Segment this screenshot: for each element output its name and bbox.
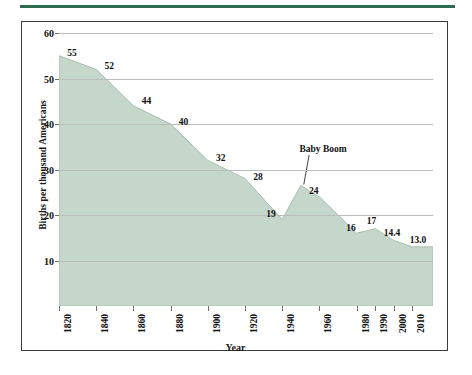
point-label-1880: 40 xyxy=(179,117,189,127)
point-label-1990: 17 xyxy=(367,216,377,226)
gridline-60 xyxy=(59,33,433,34)
y-tick-mark-40 xyxy=(55,124,59,125)
x-tick-mark-1840 xyxy=(96,306,97,311)
y-tick-label-40: 40 xyxy=(44,119,54,130)
x-tick-label-1860: 1860 xyxy=(137,314,147,333)
x-tick-mark-1960 xyxy=(319,306,320,311)
x-tick-mark-1990 xyxy=(375,306,376,311)
x-tick-label-1920: 1920 xyxy=(249,314,259,333)
x-tick-label-1980: 1980 xyxy=(361,314,371,333)
point-label-1900: 32 xyxy=(216,153,226,163)
x-tick-label-1940: 1940 xyxy=(286,314,296,333)
gridline-50 xyxy=(59,79,433,80)
point-label-1940: 19 xyxy=(266,209,276,219)
y-tick-label-20: 20 xyxy=(44,210,54,221)
point-label-1820: 55 xyxy=(67,48,77,58)
x-tick-label-1820: 1820 xyxy=(63,314,73,333)
decorative-top-rule xyxy=(20,5,455,8)
point-label-2010: 13.0 xyxy=(410,235,427,245)
plot-area: 1020304050601820184018601880190019201940… xyxy=(59,33,433,306)
x-tick-mark-1880 xyxy=(171,306,172,311)
x-tick-label-1840: 1840 xyxy=(100,314,110,333)
y-tick-mark-10 xyxy=(55,261,59,262)
y-tick-label-30: 30 xyxy=(44,164,54,175)
x-tick-label-2000: 2000 xyxy=(398,314,408,333)
gridline-20 xyxy=(59,215,433,216)
x-axis-title: Year xyxy=(22,342,449,353)
y-tick-label-10: 10 xyxy=(44,255,54,266)
x-tick-mark-1980 xyxy=(357,306,358,311)
x-tick-label-1990: 1990 xyxy=(379,314,389,333)
y-tick-mark-50 xyxy=(55,79,59,80)
y-tick-label-50: 50 xyxy=(44,73,54,84)
gridline-30 xyxy=(59,170,433,171)
point-label-1840: 52 xyxy=(104,61,114,71)
area-path xyxy=(59,56,433,306)
x-tick-mark-2010 xyxy=(412,306,413,311)
gridline-10 xyxy=(59,261,433,262)
gridline-40 xyxy=(59,124,433,125)
y-tick-mark-60 xyxy=(55,33,59,34)
x-tick-label-1960: 1960 xyxy=(323,314,333,333)
x-tick-mark-2000 xyxy=(394,306,395,311)
y-tick-label-60: 60 xyxy=(44,28,54,39)
x-tick-mark-1920 xyxy=(245,306,246,311)
y-tick-mark-20 xyxy=(55,215,59,216)
x-tick-mark-1820 xyxy=(59,306,60,311)
x-tick-label-1880: 1880 xyxy=(175,314,185,333)
x-tick-label-1900: 1900 xyxy=(212,314,222,333)
x-tick-mark-1900 xyxy=(208,306,209,311)
y-tick-mark-30 xyxy=(55,170,59,171)
point-label-2000: 14.4 xyxy=(384,228,401,238)
point-label-1860: 44 xyxy=(142,96,152,106)
x-tick-label-2010: 2010 xyxy=(416,314,426,333)
point-label-1980: 16 xyxy=(346,223,356,233)
figure-page: Births per thousand Americans 1020304050… xyxy=(0,0,472,375)
x-tick-mark-1940 xyxy=(282,306,283,311)
point-label-1920: 28 xyxy=(253,172,263,182)
point-label-1960: 24 xyxy=(309,186,319,196)
annotation-baby-boom: Baby Boom xyxy=(299,144,346,154)
x-tick-mark-1860 xyxy=(133,306,134,311)
figure-frame: Births per thousand Americans 1020304050… xyxy=(21,21,448,351)
